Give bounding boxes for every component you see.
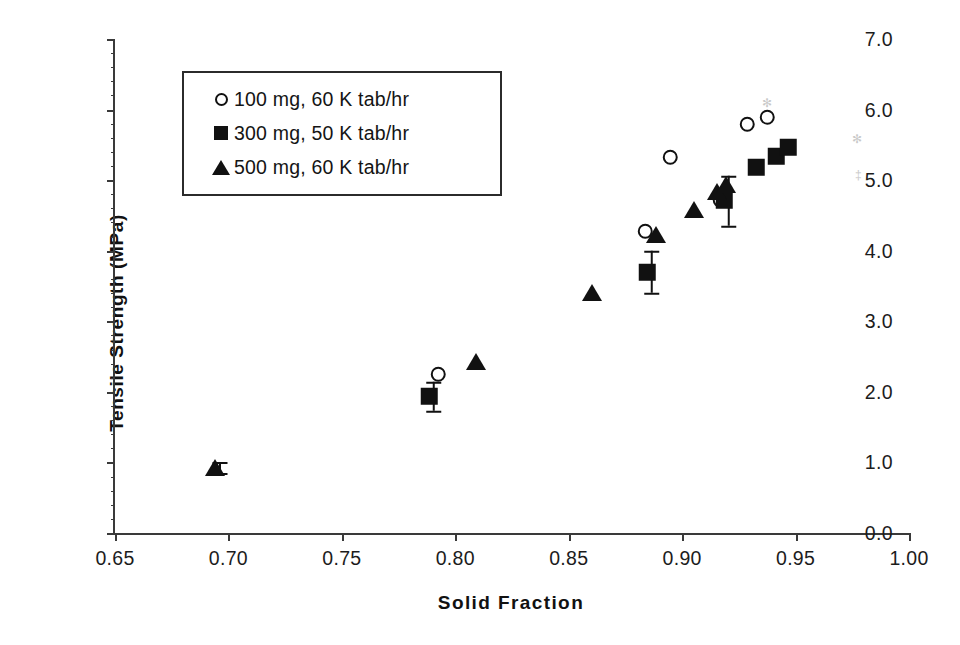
x-axis-tick — [569, 533, 571, 541]
y-axis-minor-tick — [111, 208, 115, 209]
y-axis-minor-tick — [111, 519, 115, 520]
open-circle-marker — [662, 150, 677, 165]
y-axis-tick — [107, 462, 115, 464]
x-axis-tick-label: 0.90 — [663, 547, 702, 570]
filled-square-marker — [421, 388, 438, 405]
y-axis-minor-tick — [111, 222, 115, 223]
filled-triangle-marker — [646, 226, 666, 243]
filled-triangle-marker — [466, 353, 486, 370]
y-axis-tick-label: 6.0 — [865, 98, 893, 121]
error-bar-cap — [426, 381, 441, 383]
data-point-filled-square — [756, 167, 765, 176]
y-axis-minor-tick — [111, 95, 115, 96]
x-axis-tick-label: 0.75 — [322, 547, 361, 570]
x-axis-tick — [909, 533, 911, 541]
y-axis-minor-tick — [111, 67, 115, 68]
y-axis-minor-tick — [111, 265, 115, 266]
data-point-filled-square — [647, 272, 656, 281]
y-axis-tick-label: 2.0 — [865, 380, 893, 403]
y-axis-minor-tick — [111, 166, 115, 167]
y-axis-minor-tick — [111, 505, 115, 506]
data-point-open-circle — [769, 118, 776, 125]
legend-label: 300 mg, 50 K tab/hr — [234, 122, 409, 145]
legend-item-300mg: 300 mg, 50 K tab/hr — [194, 116, 490, 150]
data-point-filled-triangle — [656, 235, 666, 243]
y-axis-minor-tick — [111, 279, 115, 280]
x-axis-tick-label: 0.65 — [95, 547, 134, 570]
y-axis-tick — [107, 251, 115, 253]
y-axis-tick — [107, 533, 115, 535]
scan-artifact: ‡ — [855, 168, 862, 182]
x-axis-tick-label: 1.00 — [889, 547, 928, 570]
error-bar-cap — [644, 251, 659, 253]
filled-square-marker — [748, 159, 765, 176]
y-axis-tick — [107, 110, 115, 112]
y-axis-tick — [107, 392, 115, 394]
chart-legend: 100 mg, 60 K tab/hr 300 mg, 50 K tab/hr … — [182, 71, 502, 196]
y-axis-tick — [107, 180, 115, 182]
scan-artifact: ✻ — [852, 132, 862, 146]
filled-triangle-marker — [582, 284, 602, 301]
data-point-filled-triangle — [717, 192, 727, 200]
x-axis-tick — [455, 533, 457, 541]
y-axis-minor-tick — [111, 237, 115, 238]
data-point-filled-triangle — [694, 210, 704, 218]
y-axis-minor-tick — [111, 350, 115, 351]
legend-item-100mg: 100 mg, 60 K tab/hr — [194, 82, 490, 116]
filled-square-icon — [208, 126, 234, 140]
open-circle-marker — [760, 110, 775, 125]
y-axis-minor-tick — [111, 194, 115, 195]
y-axis-minor-tick — [111, 448, 115, 449]
data-point-filled-square — [429, 396, 438, 405]
y-axis-minor-tick — [111, 152, 115, 153]
y-axis-minor-tick — [111, 477, 115, 478]
data-point-filled-square — [777, 156, 786, 165]
y-axis-minor-tick — [111, 81, 115, 82]
open-circle-icon — [208, 93, 234, 106]
y-axis-tick-label: 3.0 — [865, 310, 893, 333]
y-axis-tick-label: 1.0 — [865, 451, 893, 474]
y-axis-minor-tick — [111, 406, 115, 407]
y-axis-tick — [107, 39, 115, 41]
legend-label: 500 mg, 60 K tab/hr — [234, 156, 409, 179]
data-point-open-circle — [671, 159, 678, 166]
y-axis-minor-tick — [111, 378, 115, 379]
x-axis-tick-label: 0.70 — [209, 547, 248, 570]
x-axis-tick — [796, 533, 798, 541]
x-axis-tick — [115, 533, 117, 541]
y-axis-minor-tick — [111, 53, 115, 54]
data-point-filled-triangle — [215, 468, 225, 476]
x-axis-tick — [228, 533, 230, 541]
y-axis-minor-tick — [111, 491, 115, 492]
open-circle-marker — [431, 367, 446, 382]
error-bar-cap — [644, 293, 659, 295]
y-axis-minor-tick — [111, 434, 115, 435]
y-axis-minor-tick — [111, 335, 115, 336]
data-point-filled-triangle — [726, 185, 736, 193]
y-axis-tick — [107, 321, 115, 323]
x-axis-tick-label: 0.80 — [436, 547, 475, 570]
legend-label: 100 mg, 60 K tab/hr — [234, 88, 409, 111]
filled-triangle-marker — [205, 459, 225, 476]
data-point-open-circle — [748, 125, 755, 132]
y-axis-minor-tick — [111, 293, 115, 294]
scan-artifact: ✻ — [762, 96, 772, 110]
x-axis-tick-label: 0.85 — [549, 547, 588, 570]
y-axis-tick-label: 0.0 — [865, 522, 893, 545]
data-point-filled-square — [724, 201, 733, 210]
y-axis-minor-tick — [111, 124, 115, 125]
error-bar-cap — [426, 411, 441, 413]
y-axis-tick-label: 4.0 — [865, 239, 893, 262]
y-axis-minor-tick — [111, 364, 115, 365]
filled-square-marker — [639, 263, 656, 280]
data-point-filled-triangle — [592, 293, 602, 301]
y-axis-minor-tick — [111, 420, 115, 421]
y-axis-tick-label: 5.0 — [865, 169, 893, 192]
x-axis-tick — [682, 533, 684, 541]
x-axis-title: Solid Fraction — [113, 592, 909, 614]
filled-triangle-marker — [716, 176, 736, 193]
y-axis-minor-tick — [111, 307, 115, 308]
y-axis-tick-label: 7.0 — [865, 28, 893, 51]
error-bar-cap — [721, 225, 736, 227]
x-axis-tick — [342, 533, 344, 541]
